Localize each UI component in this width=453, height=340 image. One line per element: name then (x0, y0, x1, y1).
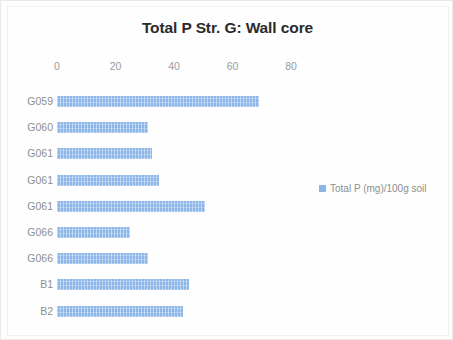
bar (57, 279, 189, 290)
chart-legend: Total P (mg)/100g soil (319, 183, 427, 194)
bar (57, 96, 259, 107)
bar (57, 122, 148, 133)
legend-swatch-icon (319, 185, 326, 192)
plot-area: 020406080 G059G060G061G061G061G066G066B1… (1, 1, 453, 340)
bar (57, 253, 148, 264)
bar (57, 148, 152, 159)
bar (57, 306, 183, 317)
legend-label: Total P (mg)/100g soil (330, 183, 427, 194)
bar-series-total-p (1, 1, 453, 340)
bar (57, 227, 130, 238)
bar (57, 201, 205, 212)
bar (57, 175, 159, 186)
chart-container: Total P Str. G: Wall core 020406080 G059… (0, 0, 453, 340)
